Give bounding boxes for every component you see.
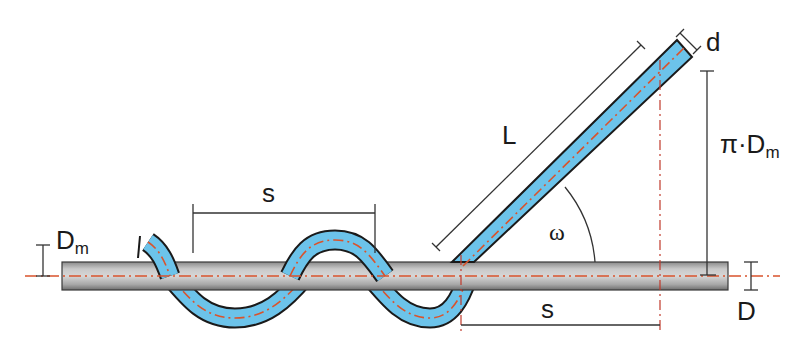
mean-diameter-label: Dm (56, 227, 89, 257)
helix-diagram-canvas (0, 0, 800, 350)
length-dimension (432, 41, 645, 251)
pitch-label-top: s (262, 180, 275, 206)
unrolled-wire (452, 40, 692, 266)
circumference-dimension (700, 71, 716, 275)
mean-diameter-dimension (36, 245, 50, 276)
mean-diameter-subscript: m (75, 239, 89, 258)
helix-angle-label: ω (549, 220, 565, 244)
circumference-main: π·D (720, 129, 765, 159)
wire-diameter-label: d (706, 29, 720, 55)
mean-diameter-main: D (56, 225, 75, 255)
rod-diameter-label: D (737, 298, 756, 324)
length-label: L (502, 122, 516, 148)
circumference-label: π·Dm (720, 131, 780, 161)
helix-angle-arc (565, 187, 595, 262)
pitch-label-bottom: s (541, 296, 554, 322)
circumference-subscript: m (765, 143, 779, 162)
